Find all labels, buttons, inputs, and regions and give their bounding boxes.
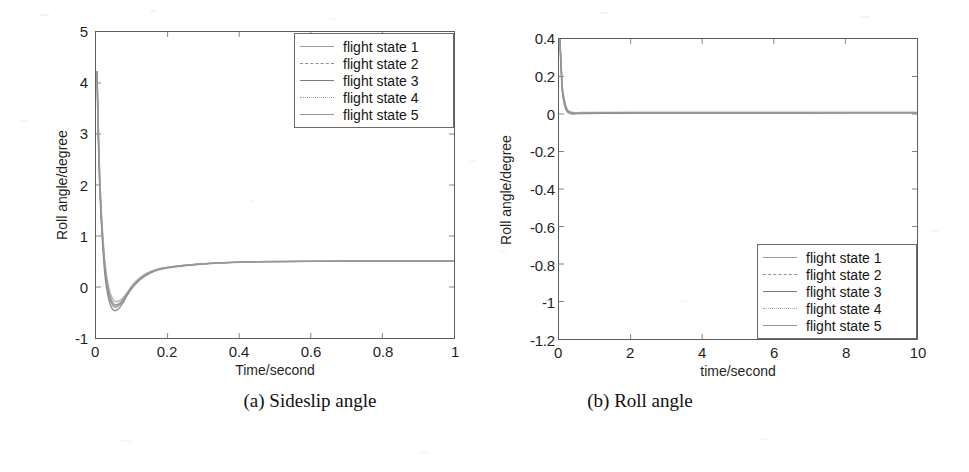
legend-item[interactable]: flight state 2 [300, 55, 446, 72]
legend-item[interactable]: flight state 1 [300, 38, 446, 55]
legend-label: flight state 1 [806, 251, 882, 265]
x-tick-b-5: 10 [910, 344, 926, 361]
legend-item[interactable]: flight state 3 [300, 72, 446, 89]
legend-item[interactable]: flight state 5 [763, 317, 909, 334]
y-tick-b-2: 0 [515, 105, 555, 122]
legend-label: flight state 5 [343, 108, 419, 122]
x-tick-a-4: 0.8 [373, 343, 393, 360]
legend-label: flight state 5 [806, 319, 882, 333]
y-tick-b-3: -0.2 [515, 143, 555, 160]
y-tick-b-4: -0.4 [515, 181, 555, 198]
y-tick-a-0: 5 [58, 23, 88, 40]
legend-label: flight state 3 [343, 74, 419, 88]
x-tick-b-3: 6 [770, 344, 778, 361]
legend-label: flight state 4 [343, 91, 419, 105]
x-tick-b-4: 8 [842, 344, 850, 361]
y-tick-a-6: -1 [58, 330, 88, 347]
x-tick-a-3: 0.6 [301, 343, 321, 360]
panel-roll-angle: Roll angle/degree 0.4 0.2 0 -0.2 -0.4 -0… [485, 0, 969, 472]
legend-item[interactable]: flight state 2 [763, 266, 909, 283]
legend-label: flight state 3 [806, 285, 882, 299]
y-tick-b-8: -1.2 [515, 332, 555, 349]
x-tick-a-0: 0 [91, 343, 99, 360]
caption-sideslip-angle: (a) Sideslip angle [244, 390, 377, 412]
legend-label: flight state 4 [806, 302, 882, 316]
legend-line-icon [763, 274, 797, 275]
legend-item[interactable]: flight state 4 [300, 89, 446, 106]
x-tick-b-1: 2 [626, 344, 634, 361]
y-tick-a-1: 4 [58, 74, 88, 91]
y-tick-a-2: 3 [58, 125, 88, 142]
legend-line-icon [300, 97, 334, 98]
x-tick-b-0: 0 [554, 344, 562, 361]
y-tick-a-4: 1 [58, 228, 88, 245]
legend-label: flight state 1 [343, 40, 419, 54]
legend-line-icon [763, 257, 797, 258]
legend-item[interactable]: flight state 4 [763, 300, 909, 317]
legend-label: flight state 2 [343, 57, 419, 71]
y-tick-a-3: 2 [58, 177, 88, 194]
x-tick-a-5: 1 [451, 343, 459, 360]
x-axis-title-a: Time/second [235, 362, 315, 378]
x-tick-a-2: 0.4 [229, 343, 249, 360]
legend-line-icon [300, 46, 334, 47]
figure-two-panel-plots: Roll angle/degree 5 4 3 2 1 0 -1 [0, 0, 969, 472]
legend-item[interactable]: flight state 3 [763, 283, 909, 300]
legend-line-icon [300, 114, 334, 115]
legend-sideslip[interactable]: flight state 1 flight state 2 flight sta… [294, 33, 454, 128]
y-tick-b-1: 0.2 [515, 67, 555, 84]
legend-roll[interactable]: flight state 1 flight state 2 flight sta… [757, 244, 917, 339]
legend-line-icon [763, 325, 797, 326]
plot-area-roll: flight state 1 flight state 2 flight sta… [558, 38, 918, 340]
legend-line-icon [763, 308, 797, 309]
x-axis-title-b: time/second [700, 363, 775, 379]
legend-item[interactable]: flight state 1 [763, 249, 909, 266]
x-tick-b-2: 4 [698, 344, 706, 361]
legend-line-icon [300, 63, 334, 64]
legend-label: flight state 2 [806, 268, 882, 282]
legend-line-icon [763, 291, 797, 292]
legend-item[interactable]: flight state 5 [300, 106, 446, 123]
x-tick-a-1: 0.2 [157, 343, 177, 360]
y-tick-b-7: -1 [515, 294, 555, 311]
y-tick-b-0: 0.4 [515, 30, 555, 47]
y-axis-title-b: Roll angle/degree [498, 135, 514, 245]
caption-roll-angle: (b) Roll angle [587, 390, 693, 412]
y-tick-b-6: -0.8 [515, 256, 555, 273]
legend-line-icon [300, 80, 334, 81]
y-tick-a-5: 0 [58, 279, 88, 296]
y-tick-b-5: -0.6 [515, 218, 555, 235]
plot-area-sideslip: flight state 1 flight state 2 flight sta… [95, 31, 455, 339]
panel-sideslip-angle: Roll angle/degree 5 4 3 2 1 0 -1 [0, 0, 485, 472]
